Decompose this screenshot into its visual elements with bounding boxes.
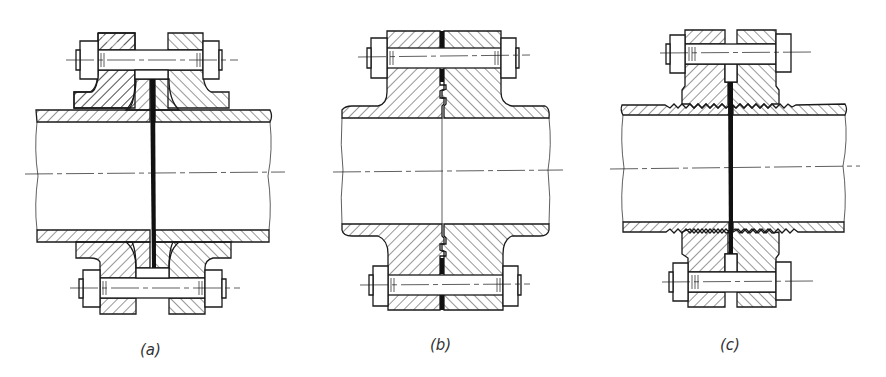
flange-right-bottom xyxy=(442,224,549,310)
pipe-wall-bottom-right xyxy=(155,230,269,242)
bolt-shank-top xyxy=(387,48,501,68)
flange-right xyxy=(442,31,549,118)
panel-a-loose-flange-joint: (a) xyxy=(25,33,285,359)
gasket xyxy=(150,79,156,268)
ring-gasket-bottom xyxy=(440,258,444,274)
flange-left-bottom xyxy=(342,224,444,310)
screwed-flange-top-right xyxy=(737,30,776,44)
pipe-wall-bottom-left xyxy=(37,230,150,242)
nut-left-top xyxy=(371,38,387,78)
ring-gasket-top xyxy=(440,31,444,49)
nut-right-bottom xyxy=(205,270,222,307)
bolt-head-top xyxy=(670,35,685,73)
bolt-shank-bottom xyxy=(688,272,776,292)
nut-left-bottom xyxy=(373,266,388,306)
nut-left-bottom xyxy=(83,270,100,307)
bolt-shank-top xyxy=(685,44,776,64)
panel-label-b: (b) xyxy=(430,336,451,354)
screwed-flange-top-left xyxy=(685,30,725,44)
panel-b-welded-neck-joint: (b) xyxy=(333,31,563,354)
pipe-centerline xyxy=(610,166,860,169)
loose-flange-top-right xyxy=(168,33,203,50)
nut-right-bottom xyxy=(503,266,518,306)
flange-left xyxy=(342,31,444,118)
nut-right-top xyxy=(776,34,791,72)
nut-right-top xyxy=(501,38,516,78)
panel-label-a: (a) xyxy=(140,341,161,359)
panel-c-screwed-flange-joint: (c) xyxy=(610,30,860,354)
panel-label-c: (c) xyxy=(720,336,740,354)
flanged-joints-diagram: (a) (b) xyxy=(0,0,886,377)
pipe-centerline xyxy=(333,170,563,172)
pipe-wall-top-right xyxy=(155,110,272,122)
pipe-wall-top-left xyxy=(36,110,150,122)
